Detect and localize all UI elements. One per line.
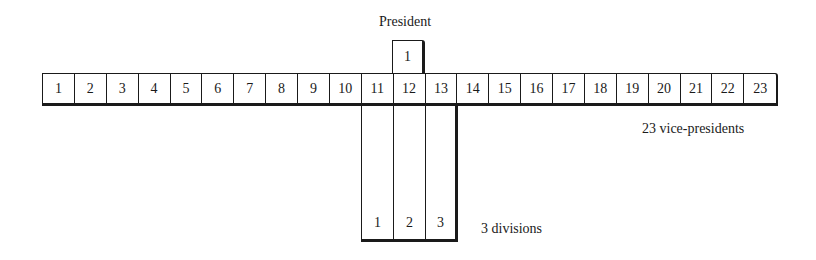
vice-president-cell: 23 — [744, 74, 776, 103]
vice-president-cell: 7 — [234, 74, 266, 103]
vice-president-cell: 3 — [107, 74, 139, 103]
vice-president-cell: 4 — [139, 74, 171, 103]
vice-president-row: 1234567891011121314151617181920212223 — [42, 73, 778, 106]
division-1: 1 — [361, 104, 393, 242]
vice-president-cell: 19 — [617, 74, 649, 103]
vice-president-cell: 9 — [298, 74, 330, 103]
vice-president-cell: 16 — [521, 74, 553, 103]
vice-president-cell: 1 — [43, 74, 75, 103]
president-label: President — [379, 14, 431, 30]
vice-president-cell: 20 — [649, 74, 681, 103]
vice-president-cell: 11 — [362, 74, 394, 103]
vice-president-cell: 12 — [394, 74, 426, 103]
division-2: 2 — [393, 104, 425, 242]
vice-president-cell: 13 — [426, 74, 458, 103]
vice-president-cell: 2 — [75, 74, 107, 103]
vice-president-cell: 10 — [330, 74, 362, 103]
divisions-label: 3 divisions — [481, 221, 542, 237]
division-3: 3 — [425, 104, 458, 242]
vice-president-cell: 6 — [202, 74, 234, 103]
vice-president-cell: 21 — [681, 74, 713, 103]
vice-president-cell: 17 — [553, 74, 585, 103]
president-box: 1 — [392, 40, 425, 74]
vice-president-cell: 15 — [489, 74, 521, 103]
vice-president-cell: 8 — [266, 74, 298, 103]
vice-president-cell: 14 — [457, 74, 489, 103]
vice-president-cell: 18 — [585, 74, 617, 103]
vice-presidents-label: 23 vice-presidents — [642, 121, 744, 137]
vice-president-cell: 22 — [712, 74, 744, 103]
vice-president-cell: 5 — [171, 74, 203, 103]
